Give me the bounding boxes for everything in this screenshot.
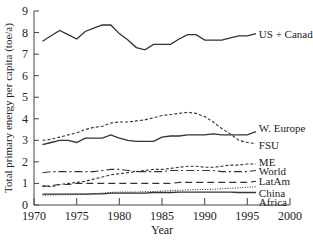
series-label: LatAm	[259, 175, 291, 187]
x-axis-title: Year	[151, 223, 173, 237]
y-tick-label: 5	[22, 90, 28, 104]
series-label: FSU	[259, 139, 279, 151]
y-axis-title: Total primary energy per capita (toe/a)	[2, 23, 15, 193]
series-line-us-canada	[43, 25, 256, 50]
x-tick-label: 2000	[278, 209, 302, 223]
series-line-fsu	[43, 112, 256, 143]
series-line-me	[43, 164, 256, 187]
x-tick-label: 1970	[22, 209, 46, 223]
y-tick-label: 8	[22, 26, 28, 40]
series-line-world	[43, 169, 256, 172]
series-labels: US + CanadaW. EuropeFSUMEWorldLatAmChina…	[259, 28, 313, 209]
series-label: W. Europe	[259, 122, 306, 134]
y-tick-label: 3	[22, 133, 28, 147]
x-tick-label: 1985	[150, 209, 174, 223]
y-tick-label: 9	[22, 4, 28, 18]
y-tick-label: 6	[22, 69, 28, 83]
series-label: Africa	[259, 196, 287, 208]
series-lines	[43, 25, 256, 195]
x-tick-label: 1975	[65, 209, 89, 223]
y-tick-label: 4	[22, 112, 28, 126]
x-tick-label: 1980	[107, 209, 131, 223]
series-line-africa	[43, 192, 256, 194]
y-tick-label: 1	[22, 176, 28, 190]
energy-per-capita-chart: 01234567891970197519801985199019952000 U…	[0, 0, 313, 241]
y-tick-label: 7	[22, 47, 28, 61]
x-tick-label: 1990	[193, 209, 217, 223]
series-label: US + Canada	[259, 28, 313, 40]
y-tick-label: 2	[22, 155, 28, 169]
x-tick-label: 1995	[235, 209, 259, 223]
